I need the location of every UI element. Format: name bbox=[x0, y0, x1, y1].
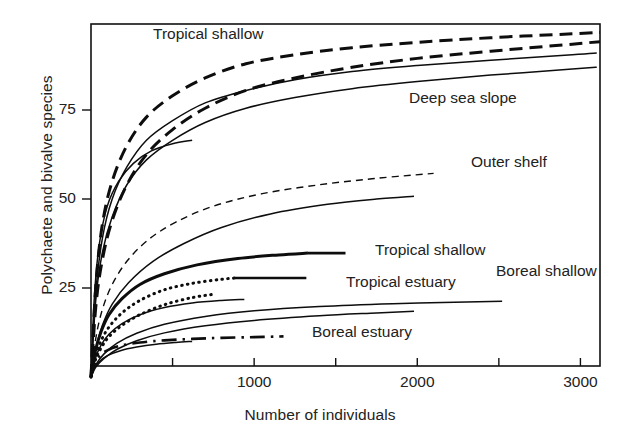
figure-container: Polychaete and bivalve species Number of… bbox=[0, 0, 629, 441]
label-deep-sea-slope: Deep sea slope bbox=[409, 89, 517, 107]
x-tick-label-3000: 3000 bbox=[535, 373, 625, 391]
label-tropical-estuary: Tropical estuary bbox=[346, 273, 456, 291]
y-tick-label-25: 25 bbox=[30, 278, 76, 296]
x-axis-title: Number of individuals bbox=[180, 406, 460, 424]
x-tick-label-2000: 2000 bbox=[372, 373, 462, 391]
label-tropical-shallow-top: Tropical shallow bbox=[153, 25, 264, 43]
curve-tropical-estuary-a bbox=[91, 278, 235, 377]
label-outer-shelf: Outer shelf bbox=[471, 153, 547, 171]
x-tick-label-1000: 1000 bbox=[209, 373, 299, 391]
y-axis-title: Polychaete and bivalve species bbox=[38, 15, 56, 355]
curve-tropical-shallow-mid bbox=[91, 253, 308, 377]
label-boreal-shallow: Boreal shallow bbox=[496, 262, 597, 280]
label-tropical-shallow-mid: Tropical shallow bbox=[375, 241, 486, 259]
y-tick-label-75: 75 bbox=[30, 100, 76, 118]
curve-boreal-shallow-b bbox=[91, 311, 414, 377]
label-boreal-estuary: Boreal estuary bbox=[312, 323, 412, 341]
y-tick-label-50: 50 bbox=[30, 189, 76, 207]
curve-low-solid-short bbox=[91, 341, 192, 377]
curve-boreal-estuary bbox=[91, 336, 284, 377]
